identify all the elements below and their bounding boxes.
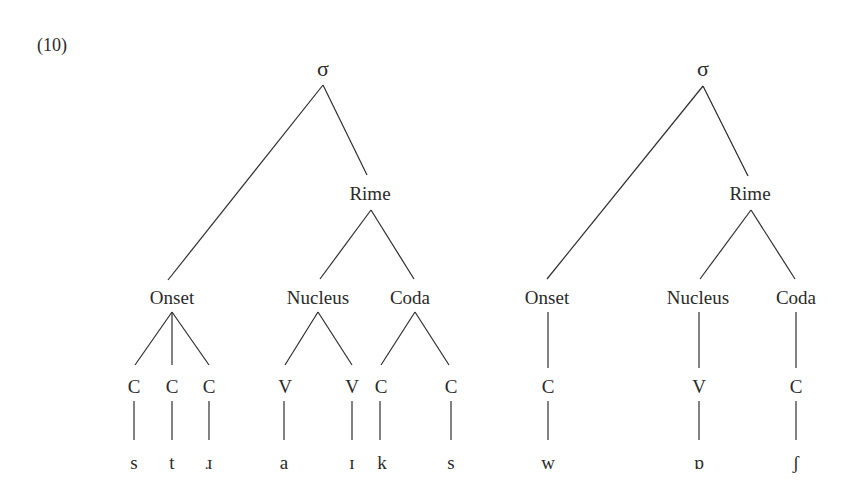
branch-sigma-onset [168, 85, 323, 280]
skeleton-slot: C [166, 376, 179, 397]
skeleton-slot: C [375, 376, 388, 397]
onset-node: Onset [525, 287, 570, 308]
segment: s [130, 452, 137, 473]
syllable-node: σ [317, 56, 329, 81]
skeleton-slot: C [445, 376, 458, 397]
syllable-tree-right: σ Rime Onset Nucleus Coda C V C w ɒ ʃ [525, 56, 817, 473]
branch-rime-coda [371, 210, 414, 279]
skeleton-slot: V [692, 376, 706, 397]
segment: t [169, 452, 175, 473]
branch-nucleus-v2 [318, 312, 352, 365]
rime-node: Rime [349, 183, 390, 204]
branch-onset-c3 [172, 312, 209, 365]
segment: w [541, 452, 555, 473]
syllable-node: σ [697, 56, 709, 81]
segment: s [447, 452, 454, 473]
branch-sigma-rime [323, 85, 367, 175]
skeleton-slot: C [790, 376, 803, 397]
coda-node: Coda [390, 287, 431, 308]
branch-rime-nucleus [320, 210, 371, 279]
segment: k [377, 452, 387, 473]
nucleus-node: Nucleus [667, 287, 729, 308]
segment: ɹ [206, 452, 212, 473]
example-number: (10) [37, 35, 67, 56]
skeleton-slot: C [542, 376, 555, 397]
branch-coda-c2 [415, 312, 449, 365]
skeleton-slot: V [345, 376, 359, 397]
branch-rime-coda [751, 210, 795, 279]
onset-node: Onset [150, 287, 195, 308]
skeleton-slot: V [278, 376, 292, 397]
branch-coda-c1 [381, 312, 415, 365]
segment: ɪ [349, 452, 354, 473]
nucleus-node: Nucleus [287, 287, 349, 308]
branch-sigma-onset [547, 86, 703, 279]
segment: ʃ [792, 452, 800, 473]
skeleton-slot: C [128, 376, 141, 397]
syllable-structure-diagram: (10) σ Rime Onset Nucleus Coda C C C V V… [0, 0, 851, 489]
branch-nucleus-v1 [285, 312, 318, 365]
coda-node: Coda [776, 287, 817, 308]
segment: a [280, 452, 289, 473]
branch-sigma-rime [703, 86, 748, 176]
branch-rime-nucleus [700, 210, 751, 279]
skeleton-slot: C [203, 376, 216, 397]
branch-onset-c1 [135, 312, 172, 365]
rime-node: Rime [729, 183, 770, 204]
syllable-tree-left: σ Rime Onset Nucleus Coda C C C V V C C [128, 56, 458, 473]
segment: ɒ [694, 452, 704, 473]
